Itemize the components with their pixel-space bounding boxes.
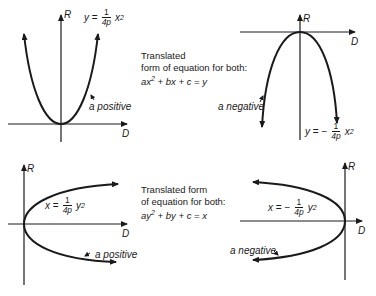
eq-term: ay: [141, 210, 151, 221]
r-axis-label: R: [303, 13, 310, 24]
parabola-up-left: [24, 34, 61, 124]
panel-bottom-right: [240, 163, 362, 280]
d-axis-label: D: [358, 225, 365, 236]
panel-bottom-left: [8, 165, 127, 285]
parabola-down-right: [300, 32, 337, 123]
caption-horizontal-form: Translated form of equation for both: ay…: [141, 184, 226, 222]
caption-line: Translated: [141, 50, 247, 62]
eq-exponent: 2: [81, 202, 85, 209]
eq-term: ax: [141, 76, 151, 87]
panel-top-left: [8, 15, 127, 142]
fraction: 14p: [292, 198, 305, 217]
caption-vertical-form: Translated form of equation for both: ax…: [141, 50, 247, 88]
d-axis-label: D: [122, 228, 129, 239]
parabola-diagram: [0, 0, 376, 296]
equation-top-left: y = 14p x2: [84, 8, 124, 27]
caption-equation: ax2 + bx + c = y: [141, 73, 247, 88]
fraction: 14p: [329, 122, 342, 141]
eq-exponent: 2: [350, 128, 354, 135]
annotation-pointer: [85, 253, 90, 256]
r-axis-label: R: [348, 161, 355, 172]
annotation-a-positive: a positive: [89, 101, 131, 112]
caption-line: Translated form: [141, 184, 226, 196]
d-axis-label: D: [122, 128, 129, 139]
r-axis-label: R: [27, 163, 34, 174]
caption-line: form of equation for both:: [141, 62, 247, 74]
eq-sign: =: [92, 12, 98, 23]
fraction-denominator: 4p: [61, 206, 74, 215]
eq-lhs: x: [268, 202, 273, 213]
equation-bottom-left: x = 14p y2: [45, 196, 85, 215]
eq-term: + by + c = x: [155, 210, 207, 221]
fraction: 14p: [100, 8, 113, 27]
eq-lhs: y: [84, 12, 89, 23]
eq-exponent: 2: [120, 14, 124, 21]
eq-lhs: x: [45, 200, 50, 211]
parabola-down-left: [262, 32, 300, 127]
annotation-a-negative: a negative: [218, 101, 264, 112]
eq-sign: = −: [313, 126, 327, 137]
eq-lhs: y: [305, 126, 310, 137]
annotation-pointer: [91, 95, 94, 100]
equation-top-right: y = − 14p x2: [305, 122, 354, 141]
fraction: 14p: [61, 196, 74, 215]
eq-sign: =: [53, 200, 59, 211]
eq-exponent: 2: [313, 204, 317, 211]
fraction-denominator: 4p: [329, 132, 342, 141]
annotation-a-negative: a negative: [230, 245, 276, 256]
d-axis-label: D: [351, 36, 358, 47]
r-axis-label: R: [64, 9, 71, 20]
eq-sign: = −: [276, 202, 290, 213]
eq-term: + bx + c = y: [155, 76, 207, 87]
fraction-denominator: 4p: [292, 208, 305, 217]
equation-bottom-right: x = − 14p y2: [268, 198, 317, 217]
fraction-denominator: 4p: [100, 18, 113, 27]
caption-line: of equation for both:: [141, 196, 226, 208]
caption-equation: ay2 + by + c = x: [141, 207, 226, 222]
annotation-a-positive: a positive: [95, 249, 137, 260]
